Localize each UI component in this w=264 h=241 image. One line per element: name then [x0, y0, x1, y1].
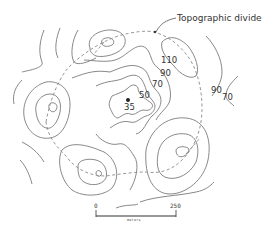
contour-label-70-right: 70 — [222, 93, 233, 102]
contour-label-50: 50 — [139, 91, 150, 100]
contour-label-90: 90 — [160, 69, 171, 78]
low-point-label-35: 35 — [124, 103, 135, 112]
contour-label-90-right: 90 — [211, 86, 222, 95]
scale-end-label: 250 — [170, 203, 181, 209]
scale-start-label: 0 — [94, 203, 98, 209]
scale-unit-label: meters — [127, 219, 141, 223]
contour-label-70: 70 — [152, 80, 163, 89]
topographic-map-diagram: Topographic divide 110 90 70 50 35 90 70… — [0, 0, 264, 241]
topographic-divide-label: Topographic divide — [177, 14, 262, 23]
contour-label-110: 110 — [161, 56, 177, 65]
contour-map-graphic — [0, 0, 264, 241]
